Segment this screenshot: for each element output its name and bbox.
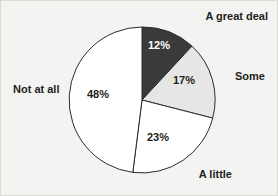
pie-chart: 12% 17% 23% 48% A great deal Some A litt…	[1, 1, 278, 196]
category-label-not-at-all: Not at all	[13, 83, 59, 95]
pie-chart-screenshot: 12% 17% 23% 48% A great deal Some A litt…	[0, 0, 278, 196]
category-label-some: Some	[235, 70, 265, 82]
slice-value-a-great-deal: 12%	[148, 39, 170, 51]
slice-value-some: 17%	[173, 74, 195, 86]
slice-value-not-at-all: 48%	[87, 88, 109, 100]
category-label-a-little: A little	[199, 168, 232, 180]
category-label-a-great-deal: A great deal	[205, 10, 268, 22]
slice-value-a-little: 23%	[147, 131, 169, 143]
